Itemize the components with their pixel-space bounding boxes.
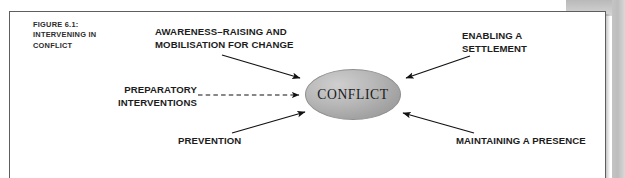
- node-label-maintaining: MAINTAINING A PRESENCE: [456, 135, 586, 148]
- node-label-preparatory-line-1: PREPARATORY: [118, 84, 197, 97]
- figure-page: FIGURE 6.1: INTERVENING IN CONFLICT AWAR…: [0, 0, 625, 178]
- node-label-maintaining-line-1: MAINTAINING A PRESENCE: [456, 135, 586, 148]
- node-label-awareness-line-1: AWARENESS–RAISING AND: [155, 26, 294, 39]
- node-label-prevention: PREVENTION: [178, 135, 241, 148]
- arrow-enabling-to-conflict: [406, 56, 470, 78]
- arrow-prevention-to-conflict: [232, 112, 305, 133]
- arrow-awareness-to-conflict: [222, 55, 300, 78]
- node-label-preparatory: PREPARATORY INTERVENTIONS: [118, 84, 197, 109]
- node-label-prevention-line-1: PREVENTION: [178, 135, 241, 148]
- node-label-awareness-line-2: MOBILISATION FOR CHANGE: [155, 39, 294, 52]
- node-label-enabling: ENABLING A SETTLEMENT: [462, 30, 527, 55]
- node-label-preparatory-line-2: INTERVENTIONS: [118, 97, 197, 110]
- center-node-conflict: CONFLICT: [305, 69, 401, 120]
- arrow-maintaining-to-conflict: [403, 113, 474, 133]
- node-label-enabling-line-2: SETTLEMENT: [462, 43, 527, 56]
- center-node-label: CONFLICT: [317, 87, 388, 103]
- node-label-awareness: AWARENESS–RAISING AND MOBILISATION FOR C…: [155, 26, 294, 51]
- node-label-enabling-line-1: ENABLING A: [462, 30, 527, 43]
